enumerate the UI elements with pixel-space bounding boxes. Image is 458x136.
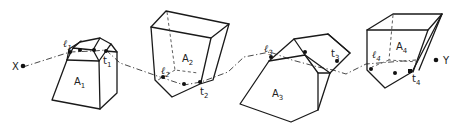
svg-text:A4: A4 bbox=[396, 41, 408, 55]
body-a2: A2 ℓ2 t2 bbox=[151, 11, 229, 100]
point-y: Y bbox=[434, 55, 450, 66]
svg-text:t1: t1 bbox=[103, 55, 111, 69]
svg-text:t4: t4 bbox=[412, 73, 421, 87]
svg-text:A3: A3 bbox=[272, 88, 283, 102]
body-a4: A4 ℓ4 t4 bbox=[367, 14, 442, 88]
svg-text:Y: Y bbox=[442, 55, 450, 66]
svg-text:ℓ4: ℓ4 bbox=[372, 49, 381, 63]
point-x: X bbox=[12, 61, 25, 72]
svg-text:A1: A1 bbox=[74, 76, 85, 90]
body-a3: A3 ℓ3 t3 bbox=[240, 34, 350, 122]
svg-text:X: X bbox=[12, 61, 19, 72]
svg-text:A2: A2 bbox=[182, 53, 193, 67]
svg-text:t2: t2 bbox=[200, 86, 208, 100]
body-a1: A1 ℓ1 t1 bbox=[52, 38, 117, 109]
svg-text:ℓ3: ℓ3 bbox=[264, 43, 273, 57]
diagram-canvas: X A1 ℓ1 t1 A2 ℓ2 t2 bbox=[0, 0, 458, 136]
svg-text:ℓ1: ℓ1 bbox=[63, 38, 72, 52]
